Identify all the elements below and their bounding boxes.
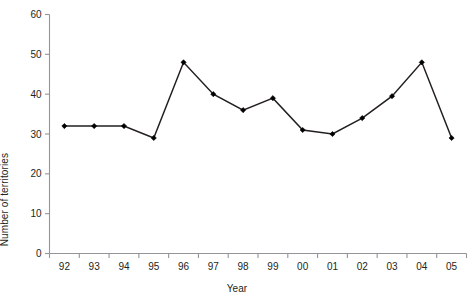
y-axis-title-label: Number of territories [0,153,10,246]
y-tick-label: 40 [30,89,42,100]
data-point-marker [92,123,97,128]
chart-plot-area: 0102030405060 92939495969798990001020304… [0,0,474,305]
x-tick-label: 96 [178,261,190,272]
x-tick-label: 01 [327,261,339,272]
x-tick-label: 95 [148,261,160,272]
y-tick-label: 30 [30,129,42,140]
y-tick-label: 60 [30,9,42,20]
x-tick-label: 93 [89,261,101,272]
x-tick-label: 00 [297,261,309,272]
data-point-marker [121,123,126,128]
x-tick-label: 02 [357,261,369,272]
y-tick-label: 20 [30,168,42,179]
x-tick-label: 98 [238,261,250,272]
line-chart: 0102030405060 92939495969798990001020304… [0,0,474,305]
x-tick-label: 04 [416,261,428,272]
data-point-markers [62,60,454,141]
x-axis: 9293949596979899000102030405 [50,254,467,273]
x-tick-label: 05 [446,261,458,272]
y-tick-label: 0 [36,248,42,259]
x-tick-label: 94 [118,261,130,272]
data-point-marker [151,135,156,140]
y-tick-label: 10 [30,208,42,219]
x-axis-title: Year [0,283,474,294]
data-point-marker [62,123,67,128]
y-tick-label: 50 [30,49,42,60]
data-point-marker [449,135,454,140]
x-tick-label: 97 [208,261,220,272]
x-axis-title-label: Year [227,283,248,294]
x-tick-label: 92 [59,261,71,272]
x-tick-label: 03 [386,261,398,272]
y-axis: 0102030405060 [30,9,49,259]
x-tick-label: 99 [267,261,279,272]
